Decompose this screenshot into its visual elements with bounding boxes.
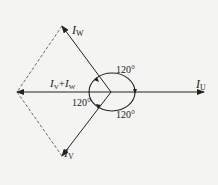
arc-arrow-topleft-icon <box>94 77 99 82</box>
iw-label: IW <box>71 23 84 38</box>
angle-label-left: 120° <box>72 97 91 108</box>
iv-plus-iw-label: IV+IW <box>49 77 76 91</box>
iu-label: IU <box>195 77 206 92</box>
phasor-diagram: IW IV IU IV+IW 120° 120° 120° <box>0 0 218 185</box>
angle-label-bottom: 120° <box>116 109 135 120</box>
angle-label-top: 120° <box>116 64 135 75</box>
dashed-construction-line-bottom <box>17 92 62 156</box>
